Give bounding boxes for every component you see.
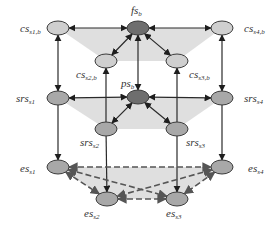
label-cs-s1-b: css1,b	[20, 22, 41, 36]
node-srs-s3	[166, 122, 188, 136]
edge-srs_s1-to-ps_b	[69, 97, 127, 98]
label-cs-s2-b: css2,b	[76, 68, 97, 82]
node-fs-b	[127, 21, 149, 35]
label-ps-b: psb	[120, 77, 135, 91]
node-srs-s1	[47, 91, 69, 105]
node-es-s2	[96, 192, 118, 206]
hierarchical-node-diagram: css1,bfsbcss4,bcss2,bcss3,bpsbsrss1srss4…	[0, 0, 276, 231]
node-es-s3	[166, 192, 188, 206]
label-cs-s4-b: css4,b	[244, 22, 265, 36]
node-srs-s2	[95, 122, 117, 136]
label-srs-s1: srss1	[16, 92, 35, 106]
node-ps-b	[127, 90, 149, 104]
node-cs-s1-b	[47, 21, 69, 35]
node-srs-s4	[211, 91, 233, 105]
node-es-s4	[211, 160, 233, 174]
label-cs-s3-b: css3,b	[189, 68, 210, 82]
label-es-s2: ess2	[84, 207, 100, 221]
node-cs-s4-b	[211, 21, 233, 35]
label-srs-s2: srss2	[80, 136, 100, 150]
edge-srs_s2-to-es_s2	[106, 136, 107, 192]
label-srs-s4: srss4	[244, 92, 264, 106]
node-es-s1	[47, 160, 69, 174]
label-fs-b: fsb	[131, 4, 142, 18]
node-cs-s3-b	[166, 54, 188, 68]
label-es-s1: ess1	[20, 162, 35, 176]
edge-srs_s4-to-ps_b	[149, 97, 211, 98]
node-cs-s2-b	[95, 54, 117, 68]
label-srs-s3: srss3	[186, 136, 206, 150]
label-es-s3: ess3	[166, 207, 182, 221]
label-es-s4: ess4	[248, 162, 264, 176]
